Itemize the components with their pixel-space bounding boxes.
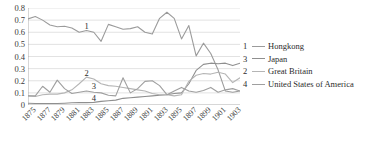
legend-item-united-states-of-america[interactable]: 4United States of America	[243, 78, 371, 91]
y-axis-tick: 0.4	[1, 53, 25, 62]
series-annotation-2: 2	[84, 69, 88, 78]
series-lines	[28, 8, 240, 105]
y-axis-tick: 0	[1, 101, 25, 110]
legend-line-swatch	[252, 84, 265, 85]
series-annotation-3: 3	[92, 82, 96, 91]
y-axis-tick-labels: 0.80.70.60.50.40.30.20.10	[0, 8, 25, 105]
legend-key: 3	[243, 55, 252, 64]
legend-item-great-britain[interactable]: 2Great Britain	[243, 65, 371, 78]
legend-label: Japan	[268, 55, 287, 64]
legend-key: 2	[243, 67, 252, 76]
chart-legend: 1Hongkong3Japan2Great Britain4United Sta…	[243, 40, 371, 90]
legend-line-swatch	[252, 71, 265, 72]
legend-label: Great Britain	[268, 67, 313, 76]
legend-item-japan[interactable]: 3Japan	[243, 53, 371, 66]
legend-key: 1	[243, 42, 252, 51]
y-axis-tick: 0.8	[1, 4, 25, 13]
series-annotation-1: 1	[84, 22, 88, 31]
legend-label: United States of America	[268, 80, 354, 89]
y-axis-tick: 0.3	[1, 65, 25, 74]
y-axis-tick: 0.6	[1, 28, 25, 37]
legend-item-hongkong[interactable]: 1Hongkong	[243, 40, 371, 53]
chart-figure: 0.80.70.60.50.40.30.20.10 1234 187518771…	[0, 0, 371, 145]
y-axis-tick: 0.2	[1, 77, 25, 86]
legend-label: Hongkong	[268, 42, 304, 51]
legend-line-swatch	[252, 58, 265, 59]
series-annotation-4: 4	[92, 94, 96, 103]
legend-line-swatch	[252, 46, 265, 47]
y-axis-tick: 0.7	[1, 16, 25, 25]
x-axis-tick-labels: 1875187718791881188318851887188918911893…	[28, 106, 240, 145]
y-axis-tick: 0.5	[1, 40, 25, 49]
y-axis-tick: 0.1	[1, 89, 25, 98]
legend-key: 4	[243, 80, 252, 89]
plot-area: 1234	[28, 8, 240, 105]
